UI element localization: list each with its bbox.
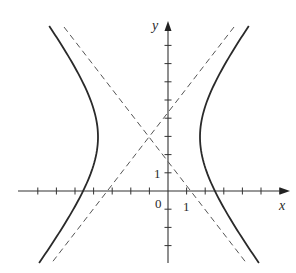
hyperbola: [39, 26, 259, 263]
y-unit-label: 1: [154, 166, 161, 181]
y-axis-arrow-icon: [165, 21, 172, 31]
asymptotes: [52, 27, 247, 263]
hyperbola-left-branch: [39, 26, 98, 263]
y-axis-label: y: [150, 18, 159, 33]
hyperbola-figure: y x 0 1 1: [0, 0, 296, 273]
x-axis-arrow-icon: [280, 188, 290, 195]
x-unit-label: 1: [183, 199, 190, 214]
hyperbola-right-branch: [200, 26, 259, 263]
asymptote-falling: [64, 27, 246, 263]
x-axis-label: x: [278, 198, 286, 213]
asymptote-rising: [52, 27, 234, 263]
axes: [18, 21, 296, 263]
origin-label: 0: [155, 196, 162, 211]
